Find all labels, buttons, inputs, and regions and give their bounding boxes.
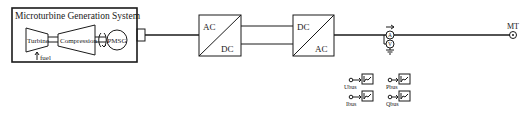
turbine[interactable]: Turbine	[26, 28, 49, 52]
scope-pbus-label: Pbus	[386, 84, 398, 90]
microturbine-block[interactable]: Microturbine Generation System Turbine C…	[12, 8, 141, 62]
inverter-dc-ac[interactable]: DC AC	[293, 15, 334, 56]
rectifier-ac-dc[interactable]: AC DC	[199, 15, 241, 56]
scope-ubus[interactable]: Ubus	[344, 74, 373, 90]
scope-ubus-label: Ubus	[344, 84, 357, 90]
rectifier-ac-label: AC	[203, 22, 216, 32]
scope-ibus-label: Ibus	[346, 101, 357, 107]
scope-qbus-label: Qbus	[386, 101, 399, 107]
mt-output-port[interactable]: MT	[507, 22, 519, 39]
compressor[interactable]: Compression	[58, 25, 97, 55]
scope-icon	[401, 94, 408, 99]
inverter-ac-label: AC	[315, 44, 328, 54]
scope-icon	[401, 77, 408, 82]
rotation-arrow-icon	[99, 33, 107, 47]
voltmeter-symbol: V	[388, 41, 392, 47]
fuel-label: fuel	[40, 54, 51, 62]
bus-meter[interactable]: A V	[384, 25, 394, 54]
scope-ibus[interactable]: Ibus	[346, 91, 373, 107]
compressor-label: Compression	[60, 37, 97, 45]
pmsg-label: PMSG	[107, 37, 126, 45]
microturbine-title: Microturbine Generation System	[15, 11, 141, 21]
scope-pbus[interactable]: Pbus	[386, 74, 410, 90]
scope-icon	[364, 94, 371, 99]
turbine-label: Turbine	[27, 37, 49, 45]
mt-block-port[interactable]	[137, 29, 145, 41]
inverter-dc-label: DC	[297, 22, 310, 32]
scope-icon	[364, 77, 371, 82]
fuel-input: fuel	[35, 52, 51, 62]
microturbine-system-diagram: Microturbine Generation System Turbine C…	[0, 0, 529, 116]
mt-port-label: MT	[507, 22, 519, 31]
scope-qbus[interactable]: Qbus	[386, 91, 410, 107]
pmsg-generator[interactable]: PMSG	[107, 30, 127, 50]
ground-icon	[386, 48, 394, 54]
ammeter-symbol: A	[388, 32, 392, 38]
rectifier-dc-label: DC	[221, 44, 234, 54]
